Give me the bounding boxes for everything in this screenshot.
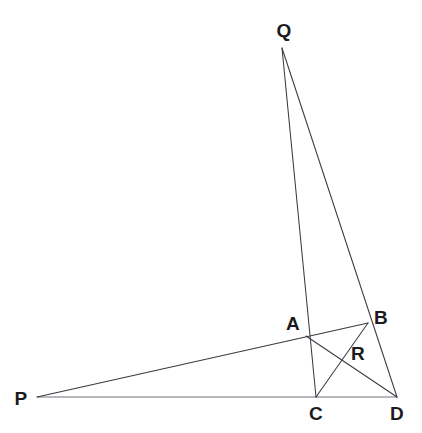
vertex-label-p: P (15, 389, 28, 408)
geometry-canvas (0, 0, 422, 433)
vertex-label-d: D (390, 404, 404, 423)
segments-group (37, 48, 397, 397)
vertex-label-c: C (309, 404, 323, 423)
segment-pb (37, 323, 368, 397)
vertex-label-a: A (286, 314, 300, 333)
geometry-figure: PQABCDR (0, 0, 422, 433)
vertex-label-q: Q (277, 21, 292, 40)
vertex-label-b: B (374, 308, 388, 327)
vertex-label-r: R (351, 344, 365, 363)
